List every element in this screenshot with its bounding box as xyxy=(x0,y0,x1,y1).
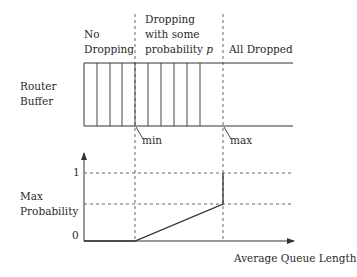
y-tick-1: 1 xyxy=(73,165,80,180)
no-dropping-label: No Dropping xyxy=(84,27,134,57)
drop-probability-curve xyxy=(84,173,223,241)
probability-graph xyxy=(84,153,294,241)
red-drop-diagram: No Dropping Dropping with some probabili… xyxy=(0,0,357,277)
max-label: max xyxy=(230,133,252,148)
y-axis-label: Max Probability xyxy=(20,189,78,219)
router-buffer xyxy=(84,63,293,126)
router-buffer-label: Router Buffer xyxy=(20,79,56,109)
probabilistic-drop-label: Dropping with some probability p xyxy=(145,12,213,57)
all-dropped-label: All Dropped xyxy=(229,42,293,57)
y-tick-0: 0 xyxy=(72,228,79,243)
x-axis-label: Average Queue Length xyxy=(234,251,356,266)
min-label: min xyxy=(142,133,162,148)
